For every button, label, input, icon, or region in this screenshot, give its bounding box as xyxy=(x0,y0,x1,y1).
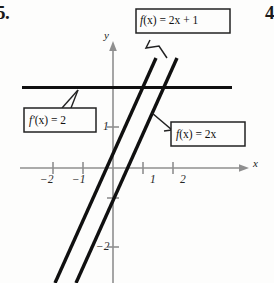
y-tick-label-neg2: −2 xyxy=(96,240,110,252)
x-tick-label-neg2: −2 xyxy=(40,173,54,185)
callout-top-expression: (x) = 2x + 1 xyxy=(143,14,198,26)
derivative-graph-figure: 5. 4 y x −2 −1 1 2 1 −2 f(x) = 2x + 1 f′… xyxy=(0,0,274,283)
y-axis-label: y xyxy=(104,29,109,41)
callout-label-f-prime: f′(x) = 2 xyxy=(29,114,66,126)
callout-label-f-2x-plus-1: f(x) = 2x + 1 xyxy=(140,14,198,26)
y-tick-label-1: 1 xyxy=(103,120,109,132)
problem-number-left: 5. xyxy=(0,2,9,24)
callout-right-expression: (x) = 2x xyxy=(179,128,216,140)
x-axis-label: x xyxy=(253,157,258,169)
graph-canvas xyxy=(0,0,274,283)
x-tick-label-2: 2 xyxy=(180,173,186,185)
callout-label-f-2x: f(x) = 2x xyxy=(176,128,216,140)
x-axis xyxy=(20,164,249,172)
callout-left-expression: (x) = 2 xyxy=(35,114,66,126)
x-tick-label-neg1: −1 xyxy=(72,173,86,185)
problem-number-right: 4 xyxy=(265,2,274,24)
line-f-2x xyxy=(76,58,177,283)
x-tick-label-1: 1 xyxy=(150,173,156,185)
